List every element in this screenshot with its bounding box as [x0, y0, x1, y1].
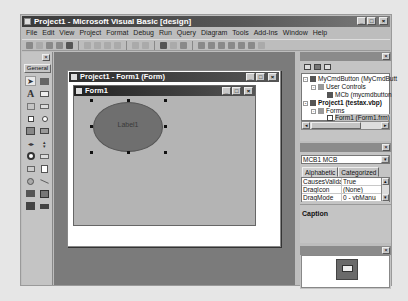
maximize-button[interactable]: □: [367, 17, 376, 25]
form-layout-icon[interactable]: [218, 42, 225, 49]
form-window-title-bar: Project1 - Form1 (Form) _ □ ×: [69, 72, 279, 82]
project-explorer-icon[interactable]: [198, 42, 205, 49]
open-project-icon[interactable]: [56, 42, 63, 49]
component-manager-icon[interactable]: [258, 42, 265, 49]
vscrollbar-tool-icon[interactable]: ▴▾: [39, 139, 50, 149]
filelistbox-tool-icon[interactable]: [39, 164, 50, 174]
menu-query[interactable]: Query: [177, 28, 196, 38]
picturebox-tool-icon[interactable]: [39, 76, 50, 86]
close-button[interactable]: ×: [379, 17, 388, 25]
menu-run[interactable]: Run: [159, 28, 172, 38]
pointer-tool-icon[interactable]: ➤: [25, 76, 36, 86]
line-tool-icon[interactable]: [39, 176, 50, 186]
toolbox-icon[interactable]: [238, 42, 245, 49]
resize-handle-tr[interactable]: [164, 99, 167, 102]
tree-node-mcb[interactable]: MCb (mycmdbutton: [327, 91, 392, 99]
paste-icon[interactable]: [104, 42, 111, 49]
resize-handle-br[interactable]: [164, 151, 167, 154]
mcb1-ellipse-control[interactable]: Label1: [93, 102, 163, 152]
form-layout-close-button[interactable]: ×: [382, 247, 390, 254]
object-browser-icon[interactable]: [228, 42, 235, 49]
textbox-tool-icon[interactable]: [39, 89, 50, 99]
timer-tool-icon[interactable]: [25, 151, 36, 161]
undo-icon[interactable]: [132, 42, 139, 49]
menu-tools[interactable]: Tools: [232, 28, 248, 38]
tree-node-mycmdbutton[interactable]: -MyCmdButton (MyCmdButt: [303, 75, 397, 83]
combobox-tool-icon[interactable]: [25, 126, 36, 136]
property-row[interactable]: DragIcon(None): [302, 186, 389, 194]
drivelistbox-tool-icon[interactable]: [39, 151, 50, 161]
toolbox-tab-general[interactable]: General: [24, 64, 51, 73]
menu-project[interactable]: Project: [79, 28, 101, 38]
copy-icon[interactable]: [94, 42, 101, 49]
tree-node-project1[interactable]: -Project1 (testax.vbp): [303, 99, 382, 107]
view-object-icon[interactable]: [314, 64, 321, 70]
resize-handle-tl[interactable]: [90, 99, 93, 102]
scroll-down-icon[interactable]: ▾: [382, 194, 389, 201]
scroll-left-icon[interactable]: ◂: [302, 122, 310, 129]
chevron-down-icon[interactable]: ▾: [381, 156, 389, 163]
tab-alphabetic[interactable]: Alphabetic: [302, 167, 338, 177]
commandbutton-tool-icon[interactable]: [39, 101, 50, 111]
add-form-icon[interactable]: [36, 42, 43, 49]
find-icon[interactable]: [114, 42, 121, 49]
break-icon[interactable]: [170, 42, 177, 49]
menu-debug[interactable]: Debug: [133, 28, 154, 38]
optionbutton-tool-icon[interactable]: [39, 114, 50, 124]
image-tool-icon[interactable]: [25, 189, 36, 199]
resize-handle-ml[interactable]: [90, 125, 93, 128]
property-grid-vscrollbar[interactable]: ▴ ▾: [381, 178, 389, 201]
frame-tool-icon[interactable]: [25, 101, 36, 111]
minimize-button[interactable]: _: [357, 17, 366, 25]
menu-view[interactable]: View: [59, 28, 74, 38]
tree-node-user-controls[interactable]: -User Controls: [311, 83, 366, 91]
end-icon[interactable]: [180, 42, 187, 49]
form-window-close-button[interactable]: ×: [268, 73, 277, 81]
shape-tool-icon[interactable]: [25, 176, 36, 186]
save-project-icon[interactable]: [66, 42, 73, 49]
menu-help[interactable]: Help: [313, 28, 327, 38]
object-selector[interactable]: MCB1 MCB ▾: [301, 155, 390, 164]
view-code-icon[interactable]: [304, 64, 311, 70]
scroll-up-icon[interactable]: ▴: [382, 178, 389, 185]
form1-designer[interactable]: Form1 _ □ × Label1: [73, 85, 256, 226]
hscrollbar-tool-icon[interactable]: ◂▸: [25, 139, 36, 149]
add-project-icon[interactable]: [26, 42, 33, 49]
resize-handle-bm[interactable]: [127, 151, 130, 154]
menu-edit[interactable]: Edit: [42, 28, 54, 38]
tab-categorized[interactable]: Categorized: [338, 167, 379, 177]
listbox-tool-icon[interactable]: [39, 126, 50, 136]
menu-addins[interactable]: Add-Ins: [254, 28, 278, 38]
properties-window-icon[interactable]: [208, 42, 215, 49]
menu-format[interactable]: Format: [106, 28, 128, 38]
toolbox-close-button[interactable]: ×: [42, 54, 50, 61]
property-row[interactable]: DragMode0 - vbManual: [302, 194, 389, 202]
label-tool-icon[interactable]: A: [25, 89, 36, 99]
form-window-minimize-button[interactable]: _: [246, 73, 255, 81]
project-explorer-close-button[interactable]: ×: [382, 53, 390, 60]
property-row[interactable]: CausesValidatiTrue: [302, 178, 389, 186]
project-tree-hscrollbar[interactable]: ◂ ▸: [301, 121, 390, 130]
start-icon[interactable]: [160, 42, 167, 49]
scroll-right-icon[interactable]: ▸: [381, 122, 389, 129]
mycmdbutton-tool-icon[interactable]: [39, 201, 50, 211]
resize-handle-tm[interactable]: [127, 99, 130, 102]
data-view-icon[interactable]: [248, 42, 255, 49]
checkbox-tool-icon[interactable]: [25, 114, 36, 124]
menu-file[interactable]: File: [26, 28, 37, 38]
cut-icon[interactable]: [84, 42, 91, 49]
ole-tool-icon[interactable]: [25, 201, 36, 211]
form-window-maximize-button[interactable]: □: [256, 73, 265, 81]
properties-close-button[interactable]: ×: [382, 144, 390, 151]
resize-handle-bl[interactable]: [90, 151, 93, 154]
menu-window[interactable]: Window: [283, 28, 308, 38]
scroll-thumb[interactable]: [311, 122, 361, 129]
menu-diagram[interactable]: Diagram: [201, 28, 227, 38]
redo-icon[interactable]: [142, 42, 149, 49]
data-tool-icon[interactable]: [39, 189, 50, 199]
menu-editor-icon[interactable]: [46, 42, 53, 49]
form-position-preview[interactable]: [342, 265, 353, 272]
dirlistbox-tool-icon[interactable]: [25, 164, 36, 174]
toggle-folders-icon[interactable]: [324, 64, 331, 70]
resize-handle-mr[interactable]: [164, 125, 167, 128]
